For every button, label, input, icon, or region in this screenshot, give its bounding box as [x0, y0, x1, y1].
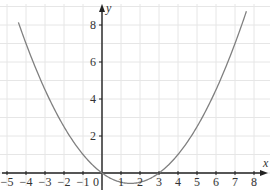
- parabola-curve: [18, 11, 246, 183]
- y-tick-label: 4: [90, 92, 96, 106]
- x-tick-label: −5: [1, 175, 14, 189]
- x-tick-label: 3: [156, 175, 162, 189]
- y-tick-label: 6: [90, 55, 96, 69]
- grid: [0, 4, 270, 186]
- y-axis-label: y: [105, 1, 112, 15]
- x-tick-label: 6: [213, 175, 219, 189]
- x-tick-label: 2: [137, 175, 143, 189]
- x-tick-label: −3: [39, 175, 52, 189]
- x-tick-label: 4: [175, 175, 181, 189]
- axes: [2, 4, 268, 190]
- y-tick-label: 2: [90, 129, 96, 143]
- y-tick-label: 8: [90, 18, 96, 32]
- x-tick-label: 8: [251, 175, 257, 189]
- x-tick-label: 5: [194, 175, 200, 189]
- parabola-chart: −5−4−3−2−1012345678 2468 x y: [0, 0, 270, 192]
- x-tick-label: −1: [77, 175, 90, 189]
- x-tick-label: 7: [232, 175, 238, 189]
- x-tick-label: −2: [58, 175, 71, 189]
- x-tick-label: 1: [118, 175, 124, 189]
- y-axis-arrow-icon: [99, 4, 105, 12]
- x-tick-label: 0: [93, 175, 99, 189]
- x-axis-arrow-icon: [260, 170, 268, 176]
- x-axis-label: x: [262, 156, 269, 170]
- x-tick-label: −4: [20, 175, 33, 189]
